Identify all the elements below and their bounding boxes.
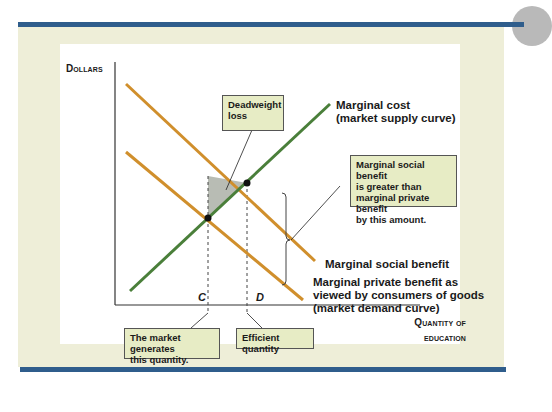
x-axis-label: Quantity of education — [410, 315, 466, 345]
leader-gap — [291, 186, 340, 240]
gap-callout-line1: Marginal social benefit — [356, 159, 451, 181]
efficient-equilibrium-point — [244, 180, 251, 187]
tick-label-d: D — [256, 291, 264, 303]
tick-label-c: C — [198, 291, 206, 303]
market-callout-line1: The market generates — [130, 332, 214, 354]
mpb-label-line1: Marginal private benefit as — [313, 276, 484, 289]
mpb-label-line3: (market demand curve) — [313, 302, 484, 315]
deadweight-callout-line2: loss — [228, 110, 278, 121]
deadweight-callout-line1: Deadweight — [228, 99, 278, 110]
gap-callout-line4: by this amount. — [356, 214, 451, 225]
market-quantity-callout: The market generates this quantity. — [124, 328, 220, 359]
leader-market — [191, 313, 208, 328]
marginal-social-benefit-label: Marginal social benefit — [325, 258, 449, 271]
marginal-private-benefit-label: Marginal private benefit as viewed by co… — [313, 276, 484, 315]
benefit-gap-callout: Marginal social benefit is greater than … — [350, 155, 457, 207]
marginal-cost-label-line2: (market supply curve) — [336, 112, 456, 125]
efficient-quantity-callout: Efficient quantity — [236, 328, 314, 349]
marginal-cost-curve — [130, 104, 330, 291]
mpb-label-line2: viewed by consumers of goods — [313, 289, 484, 302]
marginal-cost-label: Marginal cost (market supply curve) — [336, 99, 456, 125]
market-callout-line2: this quantity. — [130, 354, 214, 365]
leader-efficient — [247, 313, 262, 328]
deadweight-loss-callout: Deadweight loss — [222, 95, 284, 131]
marginal-cost-label-line1: Marginal cost — [336, 99, 456, 112]
y-axis-label: Dollars — [66, 62, 103, 75]
gap-brace — [282, 193, 290, 285]
gap-callout-line3: marginal private benefit — [356, 192, 451, 214]
market-equilibrium-point — [205, 215, 212, 222]
marginal-social-benefit-curve — [126, 84, 315, 261]
x-axis-label-line1: Quantity of — [410, 315, 466, 330]
x-axis-label-line2: education — [410, 330, 466, 345]
gap-callout-line2: is greater than — [356, 181, 451, 192]
